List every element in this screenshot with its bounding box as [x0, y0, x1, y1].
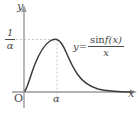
equation-function-argument: f(x) — [105, 34, 122, 45]
origin-label: O — [14, 93, 23, 104]
function-plot-figure: y x O α 1 α y= sinf(x) x — [0, 0, 139, 113]
equation-denominator: x — [88, 47, 124, 58]
y-tick-denominator: α — [5, 40, 15, 51]
equation-left-hand-side: y= — [73, 42, 88, 52]
equation-numerator: sinf(x) — [88, 35, 124, 47]
curve-equation-annotation: y= sinf(x) x — [73, 35, 124, 58]
y-tick-numerator: 1 — [5, 28, 15, 40]
y-tick-label-one-over-alpha: 1 α — [5, 28, 15, 51]
equation-sin-operator: sin — [90, 34, 105, 45]
x-axis-label: x — [128, 88, 134, 99]
y-axis-label: y — [17, 1, 23, 12]
equation-fraction: sinf(x) x — [88, 35, 124, 58]
x-tick-label-alpha: α — [53, 94, 60, 104]
